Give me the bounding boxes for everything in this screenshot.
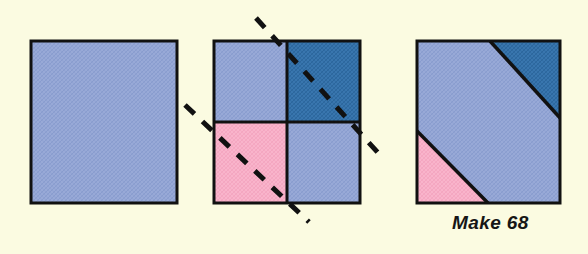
step-3-finished-diagonal-band-block (416, 41, 561, 204)
step2-top-left-quadrant-patch (214, 41, 287, 122)
step-2-four-patch-with-cut-lines (185, 18, 380, 222)
step2-top-right-quadrant-patch (287, 41, 360, 122)
step-1-single-light-blue-square (31, 41, 177, 203)
step2-bottom-right-quadrant-patch (287, 122, 360, 203)
diagram-canvas: Make 68 (0, 0, 588, 254)
make-count-caption: Make 68 (452, 212, 529, 234)
step1-full-square-patch (31, 41, 177, 203)
